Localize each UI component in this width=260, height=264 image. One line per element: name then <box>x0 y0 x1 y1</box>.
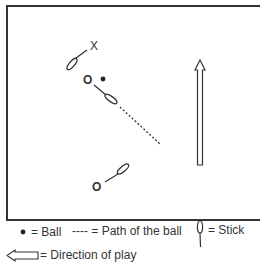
o-marker: O <box>92 180 101 194</box>
direction-arrow-icon <box>195 60 205 165</box>
legend-stick-icon <box>197 221 202 247</box>
o-marker: O <box>83 73 92 87</box>
stick-icon <box>105 163 130 182</box>
legend-direction-arrow-icon <box>7 250 38 261</box>
stick-icon <box>94 85 118 105</box>
legend-ball-icon <box>21 230 26 235</box>
legend-ball-label: = Ball <box>31 225 61 239</box>
opponent-x-player: X <box>66 39 99 71</box>
legend-stick-label: = Stick <box>208 223 244 237</box>
legend-path-label: ---- = Path of the ball <box>72 224 182 238</box>
ball-path <box>120 107 160 144</box>
ball-icon <box>101 77 106 82</box>
attacker-o-player-receiver: O <box>92 163 130 194</box>
attacker-o-player-with-ball: O <box>83 73 160 144</box>
legend-direction-label: = Direction of play <box>40 248 136 262</box>
stick-icon <box>66 50 87 71</box>
x-marker: X <box>90 39 98 53</box>
